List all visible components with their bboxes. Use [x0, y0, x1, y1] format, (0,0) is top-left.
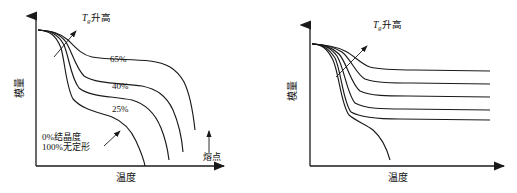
left-chart-svg [0, 0, 260, 193]
left-tg-label: Tg升高 [82, 13, 111, 24]
left-tg-subscript: g [87, 17, 90, 24]
left-curve-label-40: 40% [112, 81, 129, 91]
left-amorphous-label: 0%结晶度 100%无定形 [42, 132, 90, 152]
figure-root: Tg升高 65% 40% 25% 0%结晶度 100%无定形 熔点 温度 模量 [0, 0, 517, 193]
left-tg-text: 升高 [91, 13, 111, 23]
right-curve-1 [312, 44, 490, 71]
left-curve-65 [38, 30, 195, 130]
right-x-axis-label: 温度 [388, 172, 408, 183]
left-amorphous-line2: 100%无定形 [42, 142, 90, 152]
right-y-axis-label: 模量 [287, 75, 298, 107]
left-curve-label-65: 65% [110, 54, 127, 64]
left-amorphous-line1: 0%结晶度 [42, 132, 90, 142]
right-chart-panel: Tg升高 温度 模量 [257, 0, 517, 193]
left-y-axis-label: 模量 [14, 72, 25, 104]
left-x-axis-label: 温度 [116, 172, 136, 183]
left-amorphous-arrow [104, 131, 120, 146]
right-tg-label: Tg升高 [373, 20, 402, 31]
left-melting-point-label: 熔点 [203, 152, 221, 162]
right-tg-text: 升高 [382, 20, 402, 30]
right-curve-2 [312, 44, 490, 84]
left-chart-panel: Tg升高 65% 40% 25% 0%结晶度 100%无定形 熔点 温度 模量 [0, 0, 260, 193]
left-curve-label-25: 25% [112, 104, 129, 114]
right-tg-subscript: g [378, 24, 381, 31]
